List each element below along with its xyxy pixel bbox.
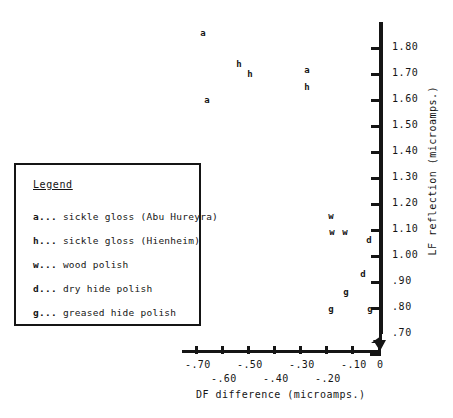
y-axis-tick xyxy=(371,125,380,128)
y-axis-tick xyxy=(371,99,380,102)
y-axis-tick-label: .90 xyxy=(392,276,412,286)
legend-key: w... xyxy=(33,259,57,270)
x-axis-tick xyxy=(325,346,328,354)
y-axis-tick-label: 1.00 xyxy=(392,250,418,260)
data-point: w xyxy=(327,212,335,221)
data-point: d xyxy=(365,236,373,245)
y-axis-tick xyxy=(371,151,380,154)
legend-key: a... xyxy=(33,211,57,222)
data-point: g xyxy=(327,305,335,314)
x-axis-tick-label: 0 xyxy=(377,360,383,370)
legend-item-sickle-gloss-hienheim: h... sickle gloss (Hienheim) xyxy=(33,235,200,246)
y-axis-tick-label: 1.40 xyxy=(392,146,418,156)
x-axis-tick xyxy=(299,346,302,354)
y-axis-tick xyxy=(371,281,380,284)
legend-label: sickle gloss (Abu Hureyra) xyxy=(63,211,218,222)
y-axis-tick-label: .80 xyxy=(392,302,412,312)
y-axis-tick xyxy=(371,177,380,180)
x-axis-tick xyxy=(221,346,224,354)
y-axis-tick xyxy=(371,229,380,232)
x-axis-tick-label: -.10 xyxy=(341,360,367,370)
legend-box: Legend a... sickle gloss (Abu Hureyra) h… xyxy=(14,163,201,326)
y-axis-tick-label: 1.60 xyxy=(392,94,418,104)
legend-key: g... xyxy=(33,307,57,318)
x-axis-tick-label: -.20 xyxy=(315,374,341,384)
x-axis-tick-label: -.30 xyxy=(289,360,315,370)
legend-label: greased hide polish xyxy=(63,307,176,318)
data-point: g xyxy=(342,288,350,297)
y-axis-tick-label: 1.10 xyxy=(392,224,418,234)
legend-key: d... xyxy=(33,283,57,294)
legend-label: wood polish xyxy=(63,259,129,270)
legend-item-wood-polish: w... wood polish xyxy=(33,259,129,270)
x-axis-tick-label: -.40 xyxy=(263,374,289,384)
y-axis-tick-label: 1.50 xyxy=(392,120,418,130)
y-axis-tick-label: 1.20 xyxy=(392,198,418,208)
legend-item-sickle-gloss-abu-hureyra: a... sickle gloss (Abu Hureyra) xyxy=(33,211,218,222)
data-point: a xyxy=(203,96,211,105)
data-point: w xyxy=(341,228,349,237)
data-point: h xyxy=(246,70,254,79)
legend-key: h... xyxy=(33,235,57,246)
y-axis-tick-label: .70 xyxy=(392,328,412,338)
y-axis-tick xyxy=(371,203,380,206)
x-axis-tick xyxy=(351,346,354,354)
x-axis-break-arrow-icon xyxy=(370,336,388,358)
legend-item-dry-hide-polish: d... dry hide polish xyxy=(33,283,152,294)
y-axis-tick xyxy=(371,73,380,76)
data-point: g xyxy=(366,305,374,314)
data-point: a xyxy=(199,29,207,38)
x-axis-tick xyxy=(195,346,198,354)
scatter-plot-figure: 1.80 1.70 1.60 1.50 1.40 1.30 1.20 1.10 … xyxy=(0,0,453,418)
data-point: h xyxy=(235,60,243,69)
x-axis-title: DF difference (microamps.) xyxy=(196,389,366,400)
x-axis-tick xyxy=(273,346,276,354)
data-point: w xyxy=(328,228,336,237)
x-axis-tick-label: -.70 xyxy=(185,360,211,370)
y-axis-tick xyxy=(371,255,380,258)
data-point: a xyxy=(303,66,311,75)
x-axis-tick-label: -.60 xyxy=(211,374,237,384)
y-axis-tick-label: 1.30 xyxy=(392,172,418,182)
legend-item-greased-hide-polish: g... greased hide polish xyxy=(33,307,176,318)
x-axis-tick-label: -.50 xyxy=(237,360,263,370)
legend-title: Legend xyxy=(33,179,73,190)
legend-label: dry hide polish xyxy=(63,283,153,294)
x-axis-tick xyxy=(247,346,250,354)
legend-label: sickle gloss (Hienheim) xyxy=(63,235,200,246)
y-axis-tick-label: 1.70 xyxy=(392,68,418,78)
data-point: h xyxy=(303,83,311,92)
y-axis-tick xyxy=(371,47,380,50)
data-point: d xyxy=(359,270,367,279)
y-axis-title: LF reflection (microamps.) xyxy=(427,96,438,256)
y-axis-tick-label: 1.80 xyxy=(392,42,418,52)
